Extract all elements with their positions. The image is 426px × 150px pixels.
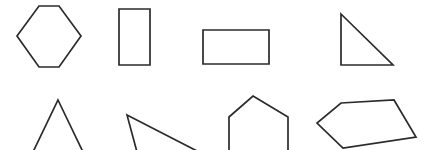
shapes-figure — [0, 0, 426, 150]
canvas-background — [0, 0, 426, 150]
shape-canvas — [0, 0, 426, 150]
